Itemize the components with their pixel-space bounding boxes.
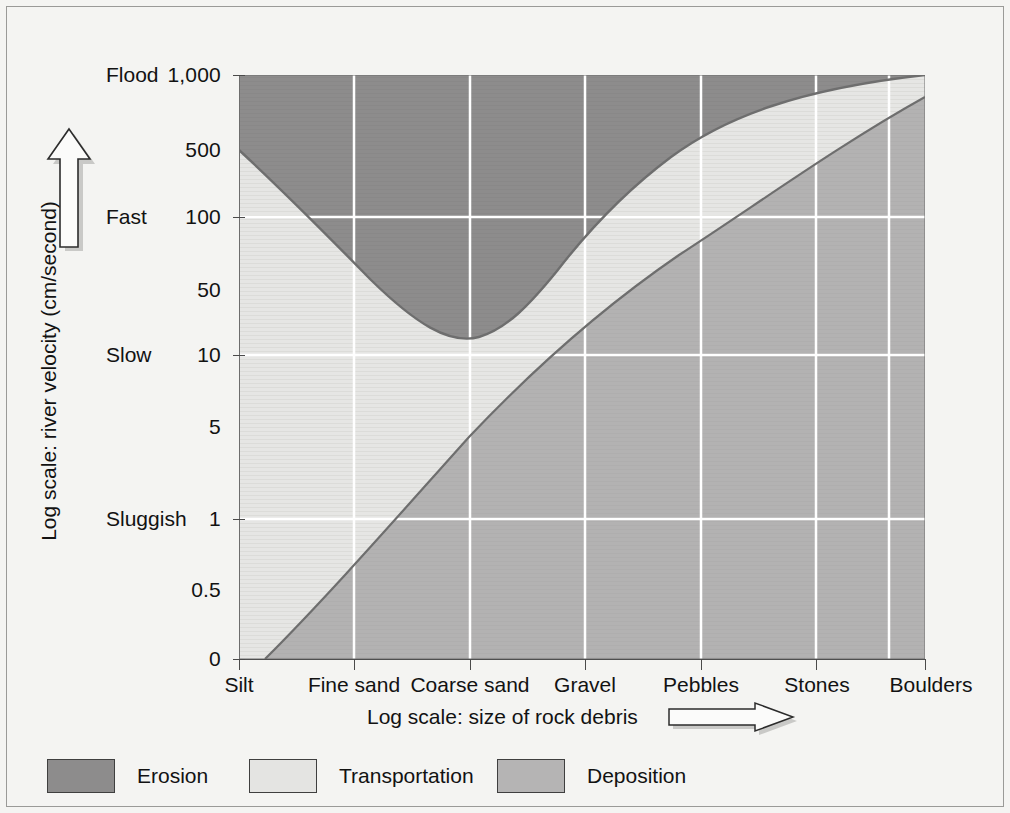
x-tick-label-silt: Silt xyxy=(197,673,281,697)
y-tick-label-0: 0 xyxy=(111,647,221,671)
y-tickmark-10 xyxy=(233,355,245,356)
x-tickmark-6 xyxy=(925,659,926,670)
legend-item-deposition: Deposition xyxy=(497,759,686,793)
legend-swatch-deposition xyxy=(497,759,565,793)
y-category-sluggish: Sluggish xyxy=(106,507,187,531)
x-tickmark-3 xyxy=(585,659,586,670)
y-category-fast: Fast xyxy=(106,205,147,229)
legend-swatch-transportation xyxy=(249,759,317,793)
y-tickmark-1 xyxy=(233,519,245,520)
increasing-size-arrow xyxy=(667,701,797,735)
y-tick-label-5: 5 xyxy=(111,415,221,439)
y-tick-label-50: 50 xyxy=(111,278,221,302)
x-tick-label-pebbles: Pebbles xyxy=(648,673,754,697)
legend-label-transportation: Transportation xyxy=(339,764,474,788)
legend-label-erosion: Erosion xyxy=(137,764,208,788)
x-tick-label-boulders: Boulders xyxy=(873,673,989,697)
y-category-slow: Slow xyxy=(106,343,152,367)
x-axis-title: Log scale: size of rock debris xyxy=(367,705,638,729)
y-tick-label-500: 500 xyxy=(111,138,221,162)
figure-frame: 1,000 500 100 50 10 5 1 0.5 0 Flood Fast… xyxy=(6,6,1004,807)
legend-item-erosion: Erosion xyxy=(47,759,208,793)
hjulstrom-curve-svg xyxy=(239,75,925,659)
x-tick-label-fine-sand: Fine sand xyxy=(294,673,414,697)
y-category-flood: Flood xyxy=(106,63,159,87)
y-tickmark-100 xyxy=(233,217,245,218)
x-tick-label-gravel: Gravel xyxy=(535,673,635,697)
x-tickmark-0 xyxy=(239,659,240,670)
y-axis-spine xyxy=(239,75,240,659)
x-axis-spine xyxy=(239,659,926,660)
y-tickmark-1000 xyxy=(233,75,245,76)
legend-item-transportation: Transportation xyxy=(249,759,474,793)
x-tickmark-5 xyxy=(816,659,817,670)
y-tick-label-0point5: 0.5 xyxy=(111,578,221,602)
x-tickmark-2 xyxy=(470,659,471,670)
x-tickmark-4 xyxy=(701,659,702,670)
legend-label-deposition: Deposition xyxy=(587,764,686,788)
chart-page: 1,000 500 100 50 10 5 1 0.5 0 Flood Fast… xyxy=(0,0,1010,813)
legend-swatch-erosion xyxy=(47,759,115,793)
increasing-velocity-arrow xyxy=(43,123,95,251)
x-tick-label-stones: Stones xyxy=(767,673,867,697)
x-tick-label-coarse-sand: Coarse sand xyxy=(402,673,538,697)
plot-area xyxy=(239,75,925,659)
x-tickmark-1 xyxy=(354,659,355,670)
